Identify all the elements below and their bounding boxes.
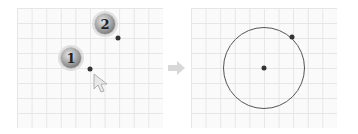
circle-radius-point	[290, 35, 295, 40]
step-1-badge: 1	[60, 47, 82, 69]
mouse-cursor-icon	[93, 73, 109, 93]
radius-point	[116, 36, 121, 41]
circle-center-point	[262, 66, 267, 71]
step-1-label: 1	[66, 51, 75, 66]
right-arrow-icon	[168, 61, 185, 75]
center-point	[88, 67, 93, 72]
step-2-label: 2	[100, 17, 109, 32]
step-2-badge: 2	[94, 13, 116, 35]
